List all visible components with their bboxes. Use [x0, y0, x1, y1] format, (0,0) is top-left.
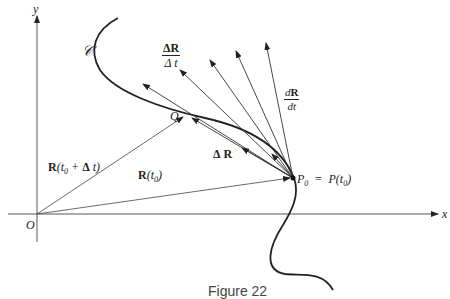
r-t0-dt-label: R(t0 + Δ t): [48, 161, 100, 176]
origin-label: O: [26, 219, 35, 231]
secant-vector-2: [180, 70, 293, 178]
vector-r-t0: [37, 178, 290, 214]
point-p0: [291, 176, 296, 181]
secant-vector-4: [236, 51, 293, 178]
figure-caption: Figure 22: [208, 283, 267, 299]
r-t0-label: R(t0): [138, 169, 162, 184]
point-q-label: Q: [170, 110, 179, 122]
x-axis-label: x: [442, 208, 447, 220]
point-p0-label: P0 = P(t0): [297, 173, 351, 188]
secant-vector-1: [143, 84, 293, 178]
delta-r-over-delta-t-label: ΔR Δ t: [162, 42, 180, 69]
delta-r-label: Δ R: [213, 148, 232, 160]
y-axis-label: y: [33, 3, 38, 15]
curve-label: 𝒞: [82, 44, 93, 59]
derivative-label: dR dt: [284, 87, 299, 112]
